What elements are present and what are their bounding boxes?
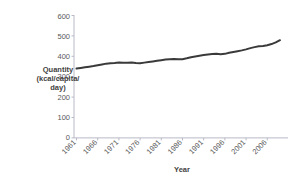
y-axis-title-line1: Quantity [43,65,74,74]
x-tick-label-1986: 1986 [166,138,184,156]
y-axis-title-line3: day) [50,83,66,92]
x-tick-label-1961: 1961 [60,138,78,156]
y-tick-label-400: 400 [57,52,70,61]
y-tick-label-100: 100 [57,113,70,122]
x-tick-label-1996: 1996 [208,138,226,156]
x-tick-label-1966: 1966 [81,138,99,156]
data-series-line [77,40,281,68]
x-tick-label-1981: 1981 [145,138,163,156]
line-chart-plot: 600 500 400 300 200 100 0 19611966197119… [0,0,296,180]
x-axis-tick-labels: 1961196619711976198119861991199620012006 [60,138,269,156]
y-tick-label-200: 200 [57,93,70,102]
x-tick-label-2001: 2001 [229,138,247,156]
x-tick-label-1971: 1971 [102,138,120,156]
y-tick-label-600: 600 [57,12,70,21]
chart-figure: 600 500 400 300 200 100 0 19611966197119… [0,0,296,180]
x-tick-label-2006: 2006 [251,138,269,156]
x-tick-label-1976: 1976 [123,138,141,156]
x-axis-title: Year [174,165,190,174]
y-tick-label-500: 500 [57,32,70,41]
y-axis-title-line2: (kcal/capita/ [37,74,81,83]
x-tick-label-1991: 1991 [187,138,205,156]
